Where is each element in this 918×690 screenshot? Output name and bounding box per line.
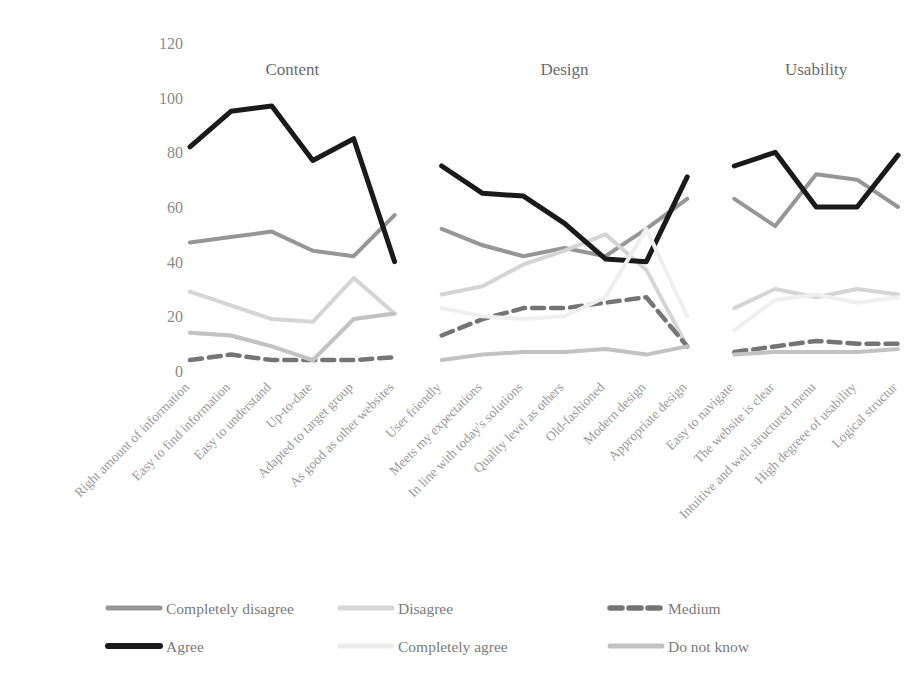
category-label: Easy to understand: [191, 379, 274, 462]
series-line-completely-agree-usability: [734, 295, 898, 331]
legend-label: Do not know: [668, 638, 750, 655]
series-line-completely-disagree-usability: [734, 174, 898, 226]
series-line-completely-disagree-content: [190, 215, 395, 256]
y-axis-tick-labels: 020406080100120: [159, 35, 183, 380]
group-title-usability: Usability: [785, 60, 848, 79]
group-titles: ContentDesignUsability: [265, 60, 847, 79]
y-axis-tick-label: 0: [175, 363, 183, 380]
y-axis-tick-label: 60: [167, 199, 183, 216]
legend-label: Medium: [668, 600, 721, 617]
series-line-medium-content: [190, 355, 395, 361]
series-line-medium-design: [442, 297, 688, 346]
category-labels: Right amount of informationEasy to find …: [71, 379, 900, 521]
group-title-content: Content: [265, 60, 319, 79]
series-line-agree-usability: [734, 152, 898, 207]
y-axis-tick-label: 100: [159, 90, 183, 107]
category-label: Appropriate design: [605, 379, 689, 463]
legend-label: Disagree: [398, 600, 453, 617]
legend-label: Agree: [166, 638, 204, 655]
y-axis-tick-label: 120: [159, 35, 183, 52]
chart-canvas: 020406080100120 ContentDesignUsability R…: [0, 0, 918, 690]
group-title-design: Design: [540, 60, 589, 79]
y-axis-tick-label: 80: [167, 144, 183, 161]
series-line-disagree-content: [190, 278, 395, 322]
legend-label: Completely agree: [398, 638, 508, 655]
series-line-do-not-know-design: [442, 346, 688, 360]
line-chart: 020406080100120 ContentDesignUsability R…: [0, 0, 918, 690]
legend-label: Completely disagree: [166, 600, 294, 617]
y-axis-tick-label: 40: [167, 254, 183, 271]
series-lines: [190, 106, 898, 360]
chart-legend: Completely disagreeDisagreeMediumAgreeCo…: [108, 600, 750, 655]
y-axis-tick-label: 20: [167, 308, 183, 325]
